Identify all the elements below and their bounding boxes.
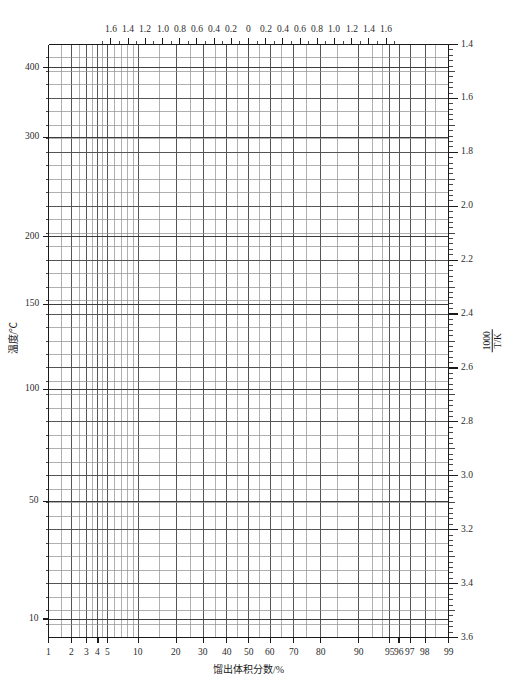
distillation-chart-plot xyxy=(0,0,525,689)
x-axis-bottom-tick-label: 40 xyxy=(222,648,232,658)
x-axis-top-tick-label: 0.8 xyxy=(174,25,186,35)
x-axis-top-tick-label: 1.0 xyxy=(157,25,169,35)
x-axis-bottom-tick-label: 2 xyxy=(69,648,74,658)
x-axis-bottom-tick-label: 4 xyxy=(95,648,100,658)
x-axis-bottom-tick-label: 96 xyxy=(394,648,404,658)
x-axis-top-tick-label: 0.4 xyxy=(208,25,220,35)
x-axis-top-tick-label: 0.2 xyxy=(260,25,272,35)
y-axis-right-tick-label: 1.6 xyxy=(461,93,473,103)
y-axis-left-tick-label: 50 xyxy=(29,496,39,506)
x-axis-bottom-tick-label: 10 xyxy=(133,648,143,658)
x-axis-bottom-title: 馏出体积分数/% xyxy=(213,665,284,675)
y-axis-right-denominator: T/K xyxy=(492,329,503,352)
x-axis-bottom-tick-label: 70 xyxy=(289,648,299,658)
y-axis-right-tick-label: 2.0 xyxy=(461,201,473,211)
x-axis-bottom-tick-label: 30 xyxy=(198,648,208,658)
y-axis-left-title: 温度/℃ xyxy=(9,322,19,355)
x-axis-bottom-tick-label: 98 xyxy=(420,648,430,658)
y-axis-right-tick-label: 1.4 xyxy=(461,40,473,50)
y-axis-right-tick-label: 2.4 xyxy=(461,309,473,319)
x-axis-top-tick-label: 1.6 xyxy=(105,25,117,35)
y-axis-right-tick-label: 3.2 xyxy=(461,525,473,535)
x-axis-top-tick-label: 1.4 xyxy=(122,25,134,35)
x-axis-top-tick-label: 0.2 xyxy=(225,25,237,35)
x-axis-bottom-tick-label: 1 xyxy=(46,648,51,658)
y-axis-right-tick-label: 2.8 xyxy=(461,417,473,427)
x-axis-bottom-tick-label: 97 xyxy=(405,648,415,658)
y-axis-left-tick-label: 300 xyxy=(25,132,39,142)
y-axis-right-tick-label: 3.6 xyxy=(461,633,473,643)
y-axis-right-tick-label: 2.6 xyxy=(461,363,473,373)
x-axis-top-tick-label: 0 xyxy=(246,25,251,35)
y-axis-left-tick-label: 200 xyxy=(25,232,39,242)
x-axis-top-tick-label: 0.6 xyxy=(294,25,306,35)
y-axis-left-tick-label: 100 xyxy=(25,384,39,394)
y-axis-right-tick-label: 3.0 xyxy=(461,471,473,481)
x-axis-top-tick-label: 0.4 xyxy=(277,25,289,35)
y-axis-left-tick-label: 400 xyxy=(25,63,39,73)
x-axis-top-tick-label: 0.8 xyxy=(311,25,323,35)
x-axis-bottom-tick-label: 80 xyxy=(316,648,326,658)
x-axis-bottom-tick-label: 90 xyxy=(354,648,364,658)
x-axis-bottom-tick-label: 60 xyxy=(265,648,275,658)
x-axis-bottom-tick-label: 50 xyxy=(244,648,254,658)
y-axis-right-fraction: 1000 T/K xyxy=(482,329,504,352)
x-axis-bottom-tick-label: 20 xyxy=(171,648,181,658)
y-axis-left-tick-label: 10 xyxy=(29,614,39,624)
x-axis-top-tick-label: 1.4 xyxy=(363,25,375,35)
y-axis-right-title: 1000 T/K xyxy=(481,330,504,352)
x-axis-bottom-tick-label: 5 xyxy=(105,648,110,658)
y-axis-left-tick-label: 150 xyxy=(25,299,39,309)
x-axis-top-tick-label: 1.2 xyxy=(346,25,358,35)
y-axis-right-tick-label: 3.4 xyxy=(461,579,473,589)
y-axis-right-tick-label: 1.8 xyxy=(461,147,473,157)
y-axis-right-tick-label: 2.2 xyxy=(461,255,473,265)
x-axis-top-tick-label: 1.6 xyxy=(380,25,392,35)
x-axis-bottom-tick-label: 99 xyxy=(444,648,454,658)
x-axis-top-tick-label: 0.6 xyxy=(191,25,203,35)
x-axis-top-tick-label: 1.2 xyxy=(139,25,151,35)
x-axis-top-tick-label: 1.0 xyxy=(328,25,340,35)
x-axis-bottom-tick-label: 3 xyxy=(84,648,89,658)
y-axis-right-numerator: 1000 xyxy=(482,329,492,352)
chart-sheet: 1.61.41.21.00.80.60.40.200.20.40.60.81.0… xyxy=(0,0,525,689)
